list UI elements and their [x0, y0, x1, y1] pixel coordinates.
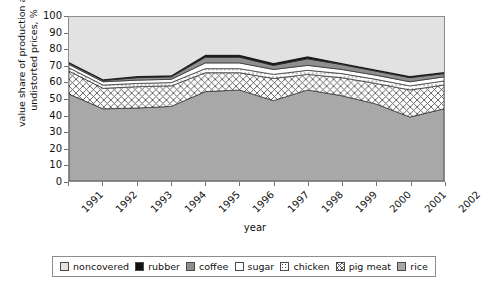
y-axis-labels: 1009080706050403020100 [0, 0, 64, 286]
y-axis-tick [64, 33, 68, 34]
x-axis-tick-label: 1992 [114, 189, 140, 215]
x-axis-tick [308, 182, 309, 186]
x-axis-tick [342, 182, 343, 186]
x-axis-tick-label: 1995 [217, 189, 243, 215]
y-axis-tick [64, 16, 68, 17]
chart-legend: noncoveredrubbercoffeesugarchickenpig me… [52, 256, 436, 277]
legend-item: rubber [135, 262, 180, 272]
y-axis-tick-label: 10 [36, 160, 62, 170]
legend-item: noncovered [60, 262, 129, 272]
x-axis-tick-label: 1996 [251, 189, 277, 215]
mid-gray-swatch [186, 262, 195, 271]
light-gray-swatch [60, 262, 69, 271]
plot-area [68, 16, 445, 182]
x-axis-title-text: year [244, 222, 266, 233]
y-axis-tick [64, 182, 68, 183]
x-axis-title: year [0, 222, 464, 233]
y-axis-tick-label: 70 [36, 61, 62, 71]
y-axis-tick-label: 20 [36, 144, 62, 154]
y-axis-tick-label: 0 [36, 177, 62, 187]
legend-label: chicken [293, 262, 329, 272]
legend-label: noncovered [73, 262, 129, 272]
dotted-swatch [280, 262, 289, 271]
x-axis-tick [205, 182, 206, 186]
white-swatch [235, 262, 244, 271]
y-axis-tick-label: 100 [36, 11, 62, 21]
y-axis-tick [64, 165, 68, 166]
legend-item: pig meat [336, 262, 391, 272]
legend-label: rubber [148, 262, 180, 272]
x-axis-tick-label: 2002 [456, 189, 482, 215]
legend-label: coffee [199, 262, 228, 272]
y-axis-tick [64, 99, 68, 100]
cross-hatch-swatch [336, 262, 345, 271]
x-axis-tick-label: 2001 [422, 189, 448, 215]
x-axis-tick [274, 182, 275, 186]
x-axis-tick [239, 182, 240, 186]
black-swatch [135, 262, 144, 271]
y-axis-tick [64, 132, 68, 133]
x-axis-tick [411, 182, 412, 186]
x-axis-tick-label: 1997 [285, 189, 311, 215]
legend-label: sugar [248, 262, 275, 272]
legend-item: coffee [186, 262, 228, 272]
y-axis-tick [64, 82, 68, 83]
y-axis-tick-label: 40 [36, 111, 62, 121]
y-axis-tick [64, 66, 68, 67]
legend-item: sugar [235, 262, 275, 272]
legend-label: rice [410, 262, 428, 272]
x-axis-tick [68, 182, 69, 186]
gray-swatch [397, 262, 406, 271]
x-axis-tick [445, 182, 446, 186]
y-axis-tick [64, 116, 68, 117]
stacked-area-svg [69, 17, 444, 181]
legend-item: chicken [280, 262, 329, 272]
y-axis-tick [64, 149, 68, 150]
x-axis-tick [137, 182, 138, 186]
x-axis-tick [376, 182, 377, 186]
x-axis-tick-label: 1991 [79, 189, 105, 215]
x-axis-tick [102, 182, 103, 186]
x-axis-tick-label: 1998 [319, 189, 345, 215]
y-axis-tick-label: 90 [36, 28, 62, 38]
y-axis-tick [64, 49, 68, 50]
x-axis-tick [171, 182, 172, 186]
y-axis-tick-label: 80 [36, 44, 62, 54]
y-axis-tick-label: 60 [36, 77, 62, 87]
y-axis-tick-label: 50 [36, 94, 62, 104]
legend-label: pig meat [349, 262, 391, 272]
legend-item: rice [397, 262, 428, 272]
x-axis-tick-label: 1994 [182, 189, 208, 215]
y-axis-tick-label: 30 [36, 127, 62, 137]
x-axis-tick-label: 2000 [388, 189, 414, 215]
x-axis-tick-label: 1993 [148, 189, 174, 215]
x-axis-tick-label: 1999 [354, 189, 380, 215]
